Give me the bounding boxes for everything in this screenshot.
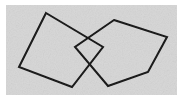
- figure-svg: [0, 0, 184, 101]
- figure-canvas: [0, 0, 184, 101]
- scanned-paper-background: [6, 5, 177, 95]
